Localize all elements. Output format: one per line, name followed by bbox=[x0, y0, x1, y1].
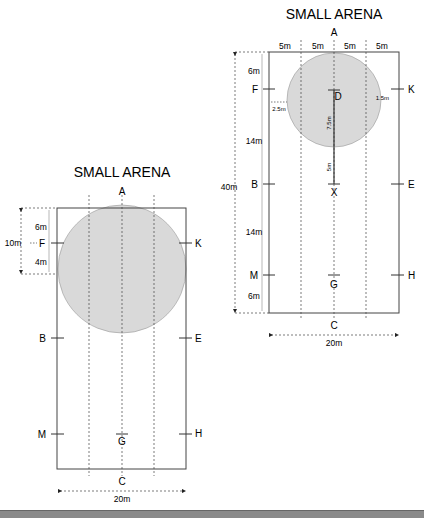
right-arena bbox=[235, 40, 404, 335]
svg-text:2.5m: 2.5m bbox=[272, 106, 285, 112]
right-marker-h: H bbox=[408, 270, 415, 281]
left-marker-b: B bbox=[39, 333, 46, 344]
left-marker-m: M bbox=[38, 429, 46, 440]
left-title: SMALL ARENA bbox=[74, 164, 171, 180]
right-marker-a: A bbox=[331, 27, 338, 38]
svg-text:14m: 14m bbox=[246, 227, 263, 237]
left-marker-c: C bbox=[118, 476, 125, 487]
svg-text:5m: 5m bbox=[312, 41, 324, 51]
left-marker-a: A bbox=[119, 186, 126, 197]
svg-text:40m: 40m bbox=[221, 182, 238, 192]
svg-text:5m: 5m bbox=[326, 163, 332, 171]
left-marker-g: G bbox=[118, 436, 126, 447]
left-marker-f: F bbox=[39, 238, 45, 249]
svg-text:4m: 4m bbox=[35, 257, 47, 267]
svg-text:5m: 5m bbox=[344, 41, 356, 51]
svg-text:20m: 20m bbox=[114, 494, 131, 504]
right-marker-m: M bbox=[250, 270, 258, 281]
svg-text:6m: 6m bbox=[248, 66, 260, 76]
svg-text:7.5m: 7.5m bbox=[326, 116, 332, 129]
svg-text:6m: 6m bbox=[248, 291, 260, 301]
svg-text:5m: 5m bbox=[376, 41, 388, 51]
right-title: SMALL ARENA bbox=[286, 6, 383, 22]
left-marker-h: H bbox=[195, 428, 202, 439]
right-marker-d: D bbox=[334, 91, 341, 102]
bottom-edge bbox=[0, 510, 424, 518]
svg-text:14m: 14m bbox=[246, 136, 263, 146]
left-marker-k: K bbox=[195, 238, 202, 249]
svg-text:10m: 10m bbox=[5, 238, 22, 248]
right-marker-g: G bbox=[330, 279, 338, 290]
right-marker-b: B bbox=[251, 179, 258, 190]
svg-text:1.5m: 1.5m bbox=[376, 95, 389, 101]
svg-text:5m: 5m bbox=[279, 41, 291, 51]
right-marker-f: F bbox=[252, 84, 258, 95]
svg-text:6m: 6m bbox=[35, 222, 47, 232]
left-marker-e: E bbox=[195, 333, 202, 344]
right-marker-c: C bbox=[330, 320, 337, 331]
right-marker-k: K bbox=[408, 84, 415, 95]
left-arena bbox=[21, 195, 192, 491]
svg-text:20m: 20m bbox=[326, 338, 343, 348]
right-marker-e: E bbox=[408, 179, 415, 190]
right-marker-x: X bbox=[331, 187, 338, 198]
